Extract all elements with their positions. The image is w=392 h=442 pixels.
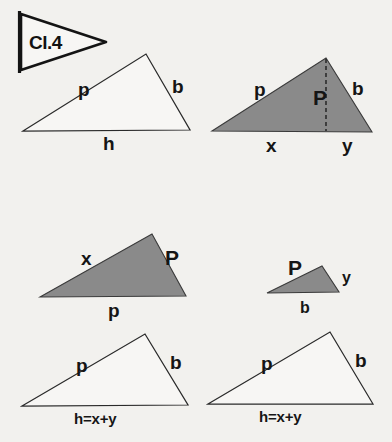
side-label-p: p [76,355,88,376]
base-label-x: x [266,135,277,156]
side-label-b: b [170,352,182,373]
base-label-h: h [103,133,115,154]
triangle-shaded-mid-left: x P p [40,234,186,321]
class-flag: Cl.4 [20,11,107,73]
triangle-shaded-top-right: p b P x y [212,58,372,156]
triangle-shape [23,54,190,131]
triangle-shape [208,332,373,404]
figure-canvas: Cl.4 p b h p b P x y x P p P [0,0,392,442]
side-label-y: y [342,269,351,286]
side-label-p: p [78,79,90,100]
side-label-b: b [352,78,364,99]
side-label-x: x [81,248,92,269]
triangle-shape [212,58,372,132]
triangle-open-top-left: p b h [23,54,190,154]
side-label-b: b [172,76,184,97]
base-label-b: b [300,299,310,316]
altitude-label-P: P [313,86,327,109]
base-label-p: p [108,300,120,321]
base-label-sum: h=x+y [259,408,302,425]
triangle-open-bottom-left: p b h=x+y [22,334,188,427]
base-label-y: y [342,135,353,156]
side-label-b: b [355,350,367,371]
side-label-p: p [254,79,266,100]
figure-page: Cl.4 p b h p b P x y x P p P [0,0,392,442]
base-label-sum: h=x+y [74,410,117,427]
side-label-p: p [261,353,273,374]
flag-label: Cl.4 [29,32,63,53]
side-label-P: P [288,256,302,279]
triangle-shape [267,266,339,293]
side-label-P: P [165,246,179,269]
triangle-open-bottom-right: p b h=x+y [208,332,373,425]
triangle-shaded-mid-right: P y b [267,256,351,316]
triangle-shape [22,334,188,406]
